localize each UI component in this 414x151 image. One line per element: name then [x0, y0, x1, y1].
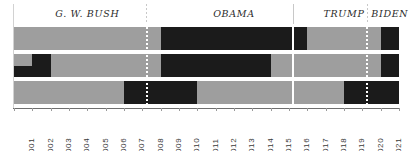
term-rule-trump-biden [367, 4, 368, 24]
heatmap-row-1 [0, 27, 414, 50]
x-axis-tick [362, 108, 363, 111]
x-axis-year-label: 2018 [339, 146, 348, 151]
x-axis-year-label: 2016 [302, 146, 311, 151]
heatmap-plot-area [0, 27, 414, 108]
x-axis-line [13, 108, 399, 109]
heatmap-cell [124, 81, 197, 104]
x-axis-tick [216, 108, 217, 111]
term-rule-obama-trump [293, 4, 294, 24]
x-axis-year-label: 2005 [101, 146, 110, 151]
president-cell-biden: BIDEN [381, 0, 399, 27]
x-axis-tick [161, 108, 162, 111]
x-axis-year-label: 2019 [357, 146, 366, 151]
heatmap-cell [271, 54, 381, 77]
heatmap-cell [51, 54, 161, 77]
heatmap-cell [381, 27, 399, 50]
x-axis-tick [106, 108, 107, 111]
president-label-biden: BIDEN [371, 8, 408, 19]
x-axis-tick [381, 108, 382, 111]
x-axis-year-label: 2002 [46, 146, 55, 151]
x-axis-year-label: 2008 [156, 146, 165, 151]
x-axis-year-label: 2001 [27, 146, 36, 151]
president-cell-trump: TRUMP [307, 0, 380, 27]
x-axis-tick [289, 108, 290, 111]
heatmap-cell [161, 27, 308, 50]
heatmap-row-2 [0, 54, 414, 77]
x-axis-tick [399, 108, 400, 111]
x-axis-tick [252, 108, 253, 111]
x-axis-year-label: 2014 [266, 146, 275, 151]
x-axis-year-label: 2009 [174, 146, 183, 151]
plot-divider-bush-obama [146, 27, 148, 108]
x-axis-tick [32, 108, 33, 111]
heatmap-cell [161, 54, 271, 77]
x-axis-year-label: 2006 [119, 146, 128, 151]
x-axis-tick [124, 108, 125, 111]
x-axis-tick [179, 108, 180, 111]
president-label-trump: TRUMP [323, 8, 364, 19]
x-axis-tick [307, 108, 308, 111]
president-header-band: G. W. BUSH OBAMA TRUMP BIDEN [0, 0, 414, 27]
president-label-obama: OBAMA [213, 8, 255, 19]
x-axis-year-label: 2011 [211, 146, 220, 151]
x-axis-tick [14, 108, 15, 111]
x-axis-tick [271, 108, 272, 111]
x-axis-year-label: 2010 [192, 146, 201, 151]
x-axis-tick [234, 108, 235, 111]
president-label-bush: G. W. BUSH [55, 8, 119, 19]
x-axis-tick [326, 108, 327, 111]
heatmap-cell [197, 81, 344, 104]
heatmap-cell [381, 54, 399, 77]
heatmap-cell [344, 81, 399, 104]
x-axis-year-label: 2015 [284, 146, 293, 151]
x-axis-year-label: 2007 [137, 146, 146, 151]
heatmap-cell [14, 27, 161, 50]
x-axis-tick [51, 108, 52, 111]
heatmap-cell [14, 81, 124, 104]
plot-divider-obama-trump [292, 27, 294, 108]
x-axis-tick [197, 108, 198, 111]
heatmap-row-3 [0, 81, 414, 104]
heatmap-cell [307, 27, 380, 50]
x-axis-year-label: 2013 [247, 146, 256, 151]
x-axis-tick [87, 108, 88, 111]
x-axis-year-label: 2004 [82, 146, 91, 151]
x-axis-year-label: 2012 [229, 146, 238, 151]
plot-divider-trump-biden [366, 27, 368, 108]
heatmap-cell-split [14, 54, 32, 77]
x-axis-year-label: 2003 [64, 146, 73, 151]
term-rule-bush-obama [146, 4, 147, 24]
president-cell-obama: OBAMA [161, 0, 308, 27]
x-axis-tick [142, 108, 143, 111]
x-axis: 2001200220032004200520062007200820092010… [0, 108, 414, 151]
x-axis-year-label: 2020 [376, 146, 385, 151]
presidential-timeline-chart: G. W. BUSH OBAMA TRUMP BIDEN 20012002200… [0, 0, 414, 151]
x-axis-year-label: 2017 [321, 146, 330, 151]
x-axis-tick [69, 108, 70, 111]
x-axis-year-label: 2021 [394, 146, 403, 151]
x-axis-tick [344, 108, 345, 111]
president-cell-bush: G. W. BUSH [14, 0, 161, 27]
